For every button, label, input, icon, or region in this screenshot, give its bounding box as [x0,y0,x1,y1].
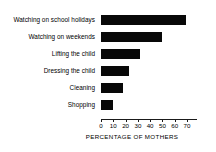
category-label: Dressing the child [0,62,95,79]
bar-chart: Watching on school holidays Watching on … [0,0,216,152]
x-axis-title: PERCENTAGE OF MOTHERS [0,133,216,140]
category-label: Watching on school holidays [0,11,95,28]
plot-area: Watching on school holidays Watching on … [0,0,216,112]
category-label: Watching on weekends [0,28,95,45]
bar-track [101,96,211,113]
bar-track [101,62,211,79]
bar-row: Lifting the child [0,45,216,62]
category-label: Cleaning [0,79,95,96]
x-axis-line [101,119,197,120]
bar-track [101,45,211,62]
bar [101,49,140,59]
bar-row: Shopping [0,96,216,113]
bar-row: Dressing the child [0,62,216,79]
bar [101,15,186,25]
category-label: Lifting the child [0,45,95,62]
category-label: Shopping [0,96,95,113]
bar-track [101,79,211,96]
bar [101,83,123,93]
bar [101,100,113,110]
x-axis-tick-label: 70 [178,122,196,129]
bar [101,32,162,42]
bar-row: Cleaning [0,79,216,96]
bar-track [101,11,211,28]
bar-track [101,28,211,45]
bar-row: Watching on school holidays [0,11,216,28]
x-axis-title-text: PERCENTAGE OF MOTHERS [38,133,179,140]
bar [101,66,129,76]
bar-row: Watching on weekends [0,28,216,45]
